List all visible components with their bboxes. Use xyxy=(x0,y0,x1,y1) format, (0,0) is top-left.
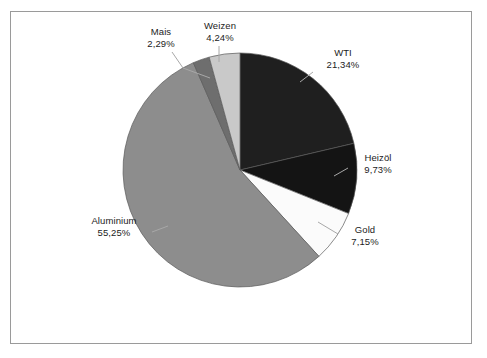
pie-label-mais-name: Mais xyxy=(134,26,188,38)
pie-label-wti: WTI 21,34% xyxy=(316,47,370,70)
chart-canvas: Mais 2,29% Weizen 4,24% WTI 21,34% Heizö… xyxy=(0,0,487,358)
pie-label-gold-value: 7,15% xyxy=(340,236,390,248)
pie-label-gold: Gold 7,15% xyxy=(340,224,390,247)
pie-label-weizen-value: 4,24% xyxy=(190,32,250,44)
pie-label-heizoel-value: 9,73% xyxy=(350,164,406,176)
pie-label-weizen-name: Weizen xyxy=(190,20,250,32)
pie-label-wti-name: WTI xyxy=(316,47,370,59)
pie-label-mais: Mais 2,29% xyxy=(134,26,188,49)
pie-label-heizoel: Heizöl 9,73% xyxy=(350,152,406,175)
pie-chart xyxy=(0,0,487,358)
pie-label-aluminium-name: Aluminium xyxy=(77,215,151,227)
pie-label-aluminium-value: 55,25% xyxy=(77,227,151,239)
pie-label-mais-value: 2,29% xyxy=(134,38,188,50)
pie-slice-group xyxy=(123,53,357,287)
pie-label-heizoel-name: Heizöl xyxy=(350,152,406,164)
pie-label-wti-value: 21,34% xyxy=(316,59,370,71)
pie-label-aluminium: Aluminium 55,25% xyxy=(77,215,151,238)
pie-label-weizen: Weizen 4,24% xyxy=(190,20,250,43)
pie-label-gold-name: Gold xyxy=(340,224,390,236)
